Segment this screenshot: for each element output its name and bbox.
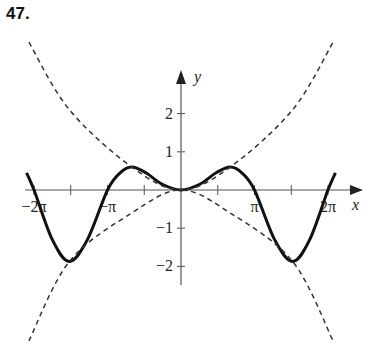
y-axis-label: y <box>192 68 202 86</box>
y-tick-label: −1 <box>156 219 173 236</box>
figure: 47. xy−2π−ππ2π21−1−2 <box>0 0 369 345</box>
y-tick-label: 1 <box>165 143 173 160</box>
plot-area: xy−2π−ππ2π21−1−2 <box>0 0 369 345</box>
y-tick-label: 2 <box>165 105 173 122</box>
x-axis-arrow-icon <box>350 185 363 195</box>
axes: xy−2π−ππ2π21−1−2 <box>21 68 363 285</box>
y-axis-arrow-icon <box>176 70 186 84</box>
y-tick-label: −2 <box>156 257 173 274</box>
x-axis-label: x <box>351 196 359 213</box>
